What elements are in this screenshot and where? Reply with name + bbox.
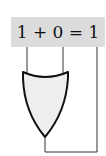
or-gate-diagram (0, 0, 106, 156)
or-gate-icon (23, 72, 68, 137)
